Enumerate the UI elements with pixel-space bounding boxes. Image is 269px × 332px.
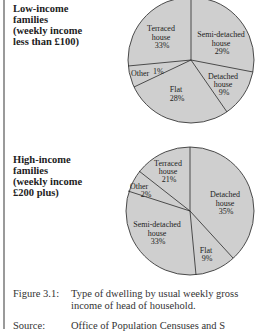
figure-caption-line: income of head of household. <box>71 300 196 311</box>
source-line: Source:Office of Population Censuses and… <box>13 320 225 332</box>
low-income-pie: Terraced house 33% Semi-detached house 2… <box>128 0 254 123</box>
figure-caption-line: Type of dwelling by usual weekly gross <box>71 288 238 299</box>
low-slice-flat: Flat 28% <box>170 85 185 103</box>
source-text: Office of Population Censuses and S <box>71 320 225 331</box>
figure-number: Figure 3.1: <box>13 288 71 300</box>
source-key: Source: <box>13 320 71 332</box>
figure-caption: Figure 3.1:Type of dwelling by usual wee… <box>13 288 238 312</box>
high-income-pie: Terraced house 21% Detached house 35% Fl… <box>126 147 254 275</box>
high-slice-flat: Flat 9% <box>200 246 214 263</box>
